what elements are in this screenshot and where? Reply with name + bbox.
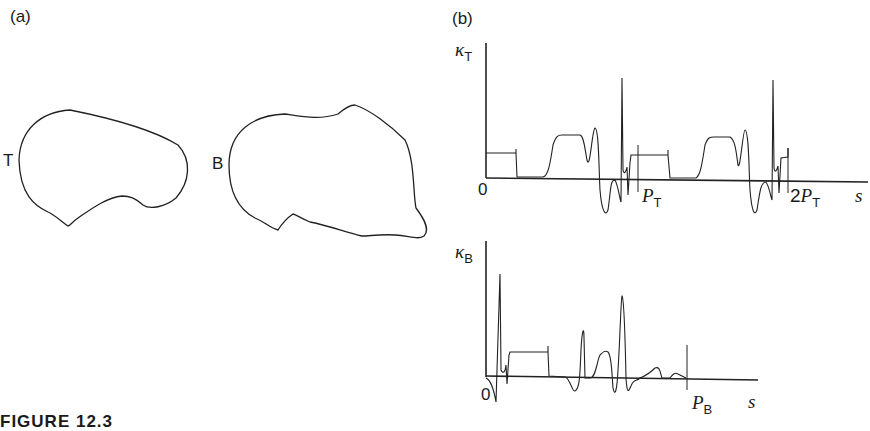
panel-b-label: (b)	[452, 10, 473, 27]
bottom-ylabel: κB	[455, 242, 473, 261]
bottom-x-axis	[486, 376, 758, 380]
top-x-axis	[486, 178, 868, 182]
top-curve-kappa-t	[486, 78, 788, 213]
shape-b-outline	[229, 105, 427, 238]
bottom-pb-sub: B	[704, 402, 713, 417]
figure-caption: FIGURE 12.3	[0, 412, 113, 431]
panel-a-label: (a)	[10, 8, 31, 25]
top-pt-sub: T	[654, 195, 662, 210]
bottom-xlabel: s	[748, 392, 755, 411]
top-2pt-label: 22PPT	[790, 186, 820, 205]
top-xlabel: s	[855, 186, 862, 205]
bottom-ylabel-sub: B	[464, 251, 473, 266]
top-ylabel-kappa: κ	[455, 39, 464, 60]
bottom-curve-kappa-b	[486, 274, 686, 402]
top-pt-label: PT	[642, 186, 662, 205]
bottom-pb-p: P	[692, 392, 704, 413]
shape-t-label: T	[3, 152, 13, 169]
bottom-pb-label: PB	[692, 393, 712, 412]
shape-b-label: B	[212, 155, 223, 172]
top-ylabel-sub: T	[464, 49, 472, 64]
bottom-ylabel-kappa: κ	[455, 241, 464, 262]
bottom-origin-label: 0	[481, 386, 490, 403]
top-pt-p: P	[642, 185, 654, 206]
shape-t-outline	[19, 110, 188, 226]
top-origin-label: 0	[478, 181, 487, 198]
top-ylabel: κT	[455, 40, 472, 59]
top-2pt-sub: T	[812, 195, 820, 210]
